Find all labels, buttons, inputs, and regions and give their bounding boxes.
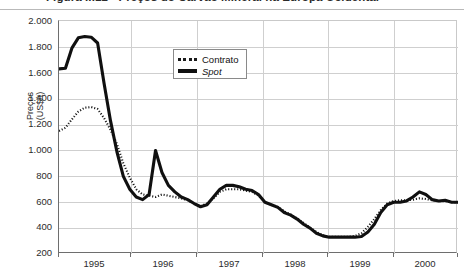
x-tick-label: 1997	[199, 258, 259, 269]
y-tick-label: 2.000	[8, 16, 52, 25]
x-tick-label: 1995	[64, 258, 124, 269]
x-tick-label: 1996	[133, 258, 193, 269]
y-tick-label: 1.400	[8, 93, 52, 102]
title-divider	[0, 9, 464, 10]
y-tick-label: 200	[8, 248, 52, 257]
series-line-contrato	[59, 107, 458, 237]
x-tick-mark	[196, 253, 197, 257]
y-tick-label: 1.600	[8, 68, 52, 77]
y-tick-label: 600	[8, 197, 52, 206]
y-tick-label: 1.200	[8, 119, 52, 128]
series-lines	[59, 21, 458, 254]
y-axis-title: Preços (US$/t)	[25, 69, 45, 143]
legend-label-spot: Spot	[202, 66, 222, 77]
y-tick-label: 1.800	[8, 42, 52, 51]
legend-swatch-dotted-icon	[178, 58, 197, 61]
legend-item-spot: Spot	[178, 65, 242, 77]
x-tick-mark	[393, 253, 394, 257]
x-tick-mark	[130, 253, 131, 257]
x-tick-mark	[262, 253, 263, 257]
legend-item-contrato: Contrato	[178, 53, 242, 65]
plot-area: Contrato Spot	[58, 20, 457, 253]
series-line-spot	[59, 37, 458, 238]
legend-label-contrato: Contrato	[202, 54, 238, 65]
y-tick-label: 400	[8, 222, 52, 231]
x-tick-label: 2000	[395, 258, 455, 269]
x-tick-label: 1998	[265, 258, 325, 269]
x-tick-label: 1999	[330, 258, 390, 269]
legend-swatch-solid-icon	[178, 69, 197, 73]
page-title: Figura II.12 - Preços do Carvão Mineral …	[46, 0, 379, 3]
y-tick-label: 800	[8, 171, 52, 180]
x-tick-mark	[58, 253, 59, 257]
x-tick-mark	[327, 253, 328, 257]
y-tick-label: 1.000	[8, 145, 52, 154]
legend: Contrato Spot	[173, 49, 247, 79]
x-tick-mark	[457, 253, 458, 257]
figure-container: Figura II.12 - Preços do Carvão Mineral …	[0, 0, 464, 272]
